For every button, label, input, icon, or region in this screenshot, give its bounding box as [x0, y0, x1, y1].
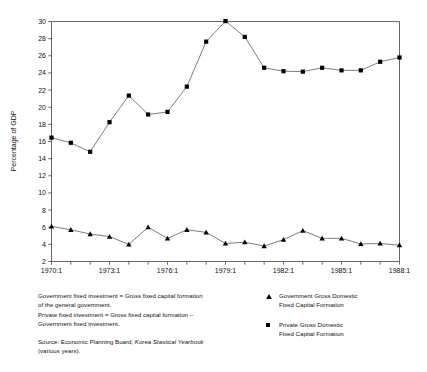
series-private [49, 19, 401, 154]
y-tick-label: 12 [38, 172, 46, 179]
data-point-triangle [281, 237, 286, 242]
source-publication: Korea Stastical Yearbook [135, 338, 204, 345]
data-point-triangle [184, 227, 189, 232]
chart-figure: 24681012141618202224262830 1970:11973:11… [0, 0, 427, 285]
data-point-square [165, 110, 169, 114]
legend-item-private: Private Gross Domestic Fixed Capital For… [262, 320, 422, 339]
data-point-square [223, 19, 227, 23]
y-tick-label: 8 [42, 207, 46, 214]
data-point-triangle [49, 224, 54, 229]
y-tick-label: 24 [38, 69, 46, 76]
x-tick-label: 1979:1 [215, 267, 237, 274]
source-line: Source: Economic Planning Board, Korea S… [38, 337, 253, 346]
data-point-square [359, 68, 363, 72]
x-tick-label: 1970:1 [41, 267, 63, 274]
source-prefix: Source: Economic Planning Board, [38, 338, 135, 345]
x-tick-label: 1982:1 [273, 267, 295, 274]
y-tick-label: 22 [38, 87, 46, 94]
legend-label-line2: Fixed Capital Formation [279, 301, 344, 308]
triangle-marker-icon [265, 293, 273, 301]
plot-frame [52, 22, 400, 262]
note-line-4: Government fixed investment. [38, 319, 253, 328]
plot-border [52, 22, 400, 262]
y-tick-label: 20 [38, 104, 46, 111]
note-line-2: of the general government. [38, 300, 253, 309]
legend-item-government: Government Gross Domestic Fixed Capital … [262, 291, 422, 310]
y-tick-label: 4 [42, 241, 46, 248]
chart-notes: Government fixed investment = Gross fixe… [38, 291, 253, 355]
series-government [49, 224, 402, 249]
chart-legend: Government Gross Domestic Fixed Capital … [262, 291, 422, 349]
data-point-square [127, 94, 131, 98]
legend-label-line1: Private Gross Domestic [279, 321, 343, 328]
y-tick-label: 2 [42, 258, 46, 265]
caption-area: Government fixed investment = Gross fixe… [0, 286, 427, 372]
y-tick-label: 26 [38, 52, 46, 59]
series-line [52, 21, 400, 152]
source-block: Source: Economic Planning Board, Korea S… [38, 337, 253, 356]
x-tick-label: 1973:1 [99, 267, 121, 274]
data-point-triangle [145, 225, 150, 230]
data-series-group [49, 19, 402, 248]
legend-label-line1: Government Gross Domestic [279, 292, 358, 299]
data-point-triangle [300, 228, 305, 233]
y-tick-label: 6 [42, 224, 46, 231]
data-point-square [185, 85, 189, 89]
y-tick-label: 18 [38, 121, 46, 128]
square-marker-icon [265, 321, 273, 329]
y-tick-label: 16 [38, 138, 46, 145]
data-point-square [339, 68, 343, 72]
data-point-square [378, 60, 382, 64]
x-tick-label: 1985:1 [331, 267, 353, 274]
y-tick-label: 10 [38, 189, 46, 196]
y-axis-title: Percentage of GDP [10, 110, 18, 171]
data-point-square [69, 141, 73, 145]
note-line-3: Private fixed investment = Gross fixed c… [38, 310, 253, 319]
data-point-square [281, 69, 285, 73]
data-point-square [88, 150, 92, 154]
data-point-square [397, 55, 401, 59]
data-point-square [146, 112, 150, 116]
x-tick-label: 1976:1 [157, 267, 179, 274]
y-tick-label: 28 [38, 35, 46, 42]
legend-label-line2: Fixed Capital Formation [279, 330, 344, 337]
data-point-square [262, 66, 266, 70]
data-point-square [320, 66, 324, 70]
line-chart: 24681012141618202224262830 1970:11973:11… [0, 0, 427, 285]
data-point-triangle [165, 236, 170, 241]
x-axis: 1970:11973:11976:11979:11982:11985:11988… [41, 262, 411, 275]
x-tick-label: 1988:1 [389, 267, 411, 274]
note-line-1: Government fixed investment = Gross fixe… [38, 291, 253, 300]
data-point-square [107, 120, 111, 124]
y-tick-label: 14 [38, 155, 46, 162]
source-suffix: (various years). [38, 346, 253, 355]
data-point-square [243, 35, 247, 39]
y-tick-label: 30 [38, 18, 46, 25]
data-point-square [49, 136, 53, 140]
data-point-square [301, 70, 305, 74]
data-point-square [204, 40, 208, 44]
